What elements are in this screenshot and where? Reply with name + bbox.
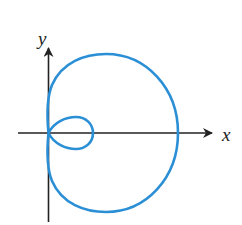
y-axis-label: y	[36, 28, 47, 49]
x-axis-label: x	[221, 124, 231, 145]
limacon-diagram: y x	[0, 0, 242, 225]
